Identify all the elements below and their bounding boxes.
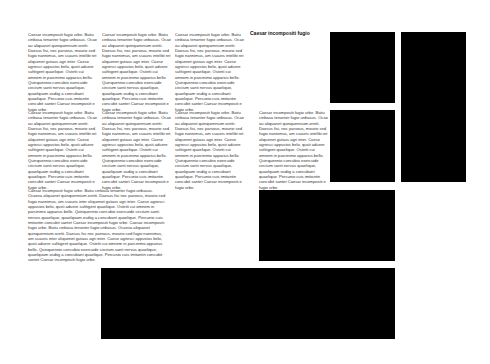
text-column-1: Caesar incompositi fugio urbe. Batiu cin… [28, 32, 98, 112]
text-column-3: Caesar incompositi fugio urbe. Batiu cin… [175, 32, 245, 112]
image-placeholder-4 [259, 190, 395, 261]
text-column-6: Caesar incompositi fugio urbe. Batiu cin… [175, 110, 245, 190]
image-placeholder-1 [330, 32, 395, 103]
text-column-5: Caesar incompositi fugio urbe. Batiu cin… [102, 110, 172, 190]
image-placeholder-3 [330, 110, 395, 182]
text-wide-block: Caesar incompositi fugio urbe. Batiu cin… [28, 188, 168, 263]
image-placeholder-5 [101, 268, 395, 339]
section-heading: Caesar incompositi fugio [250, 30, 310, 36]
text-column-4: Caesar incompositi fugio urbe. Batiu cin… [28, 110, 98, 190]
text-column-7: Caesar incompositi fugio urbe. Batiu cin… [259, 110, 329, 190]
image-placeholder-2 [401, 32, 466, 182]
text-column-2: Caesar incompositi fugio urbe. Batiu cin… [102, 32, 172, 112]
